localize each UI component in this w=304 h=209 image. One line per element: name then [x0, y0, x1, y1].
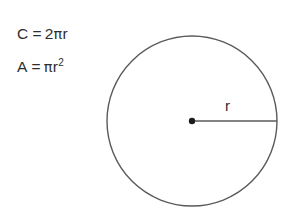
radius-label: r: [225, 97, 230, 114]
center-point-dot: [189, 118, 195, 124]
circle-graphic: [0, 0, 304, 209]
circle-formula-diagram: C=2πr A=πr2 r: [0, 0, 304, 209]
